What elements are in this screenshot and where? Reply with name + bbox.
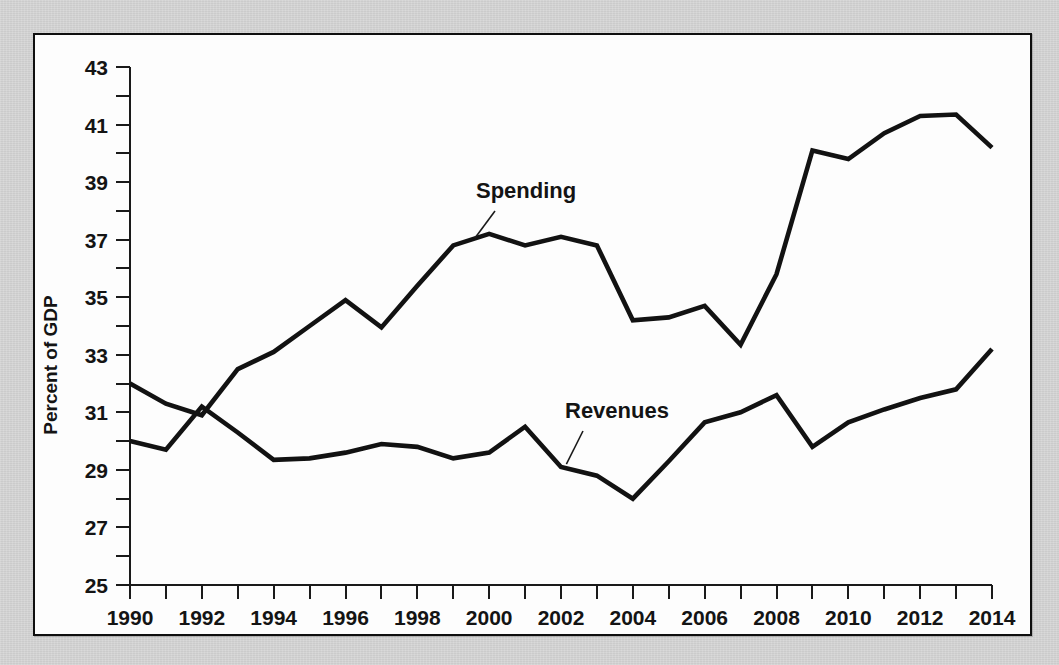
y-tick-label: 29 [85,459,108,482]
y-axis-title: Percent of GDP [40,295,61,435]
revenues-leader-line [566,431,583,464]
spending-series-label: Spending [476,178,576,203]
x-tick-label: 2008 [753,606,800,629]
x-tick-label: 1994 [250,606,297,629]
series-line-spending [130,114,992,415]
y-tick-label: 25 [85,574,109,597]
y-tick-label: 39 [85,171,108,194]
y-axis-ticks [116,67,130,585]
y-axis-tick-labels: 25272931333537394143 [85,56,109,597]
axis-lines [130,67,992,585]
revenues-series-label: Revenues [565,398,669,423]
x-tick-label: 2010 [825,606,872,629]
x-tick-label: 1990 [107,606,154,629]
y-tick-label: 41 [85,114,109,137]
chart-figure-frame: 25272931333537394143 1990199219941996199… [33,33,1032,636]
y-tick-label: 35 [85,286,109,309]
y-tick-label: 33 [85,344,108,367]
x-axis-tick-labels: 1990199219941996199820002002200420062008… [107,606,1016,629]
x-tick-label: 2002 [538,606,585,629]
x-tick-label: 1992 [178,606,225,629]
x-axis-ticks [130,585,992,599]
series-line-revenues [130,349,992,499]
x-tick-label: 2006 [681,606,728,629]
line-chart: 25272931333537394143 1990199219941996199… [35,35,1030,634]
x-tick-label: 2000 [466,606,513,629]
x-tick-label: 1996 [322,606,369,629]
x-tick-label: 2014 [969,606,1016,629]
x-tick-label: 1998 [394,606,441,629]
x-tick-label: 2004 [609,606,656,629]
y-tick-label: 27 [85,516,108,539]
y-tick-label: 43 [85,56,108,79]
y-tick-label: 37 [85,229,108,252]
x-tick-label: 2012 [897,606,944,629]
y-tick-label: 31 [85,401,109,424]
